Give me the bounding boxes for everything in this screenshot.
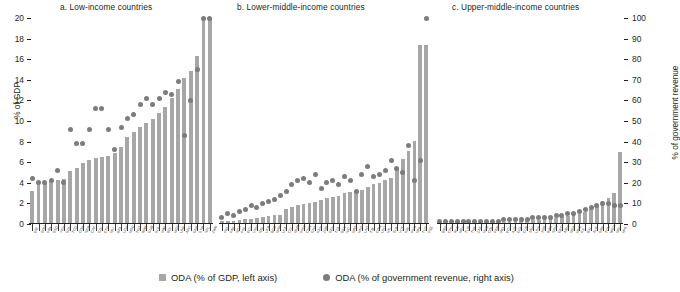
bar — [94, 158, 98, 224]
plot-area-a — [29, 18, 213, 224]
data-point-dot — [225, 211, 230, 216]
data-point-dot — [406, 143, 411, 148]
bar — [372, 184, 376, 224]
data-point-dot — [169, 92, 174, 97]
bar — [360, 190, 364, 224]
data-point-dot — [289, 182, 294, 187]
legend-label-oda-revenue: ODA (% of government revenue, right axis… — [335, 272, 514, 283]
data-point-dot — [55, 168, 60, 173]
y-tick-label-left: 14 — [8, 75, 24, 85]
bar — [401, 159, 405, 224]
y-tick-label-left: 8 — [8, 137, 24, 147]
x-tick-mark — [545, 224, 546, 231]
y-tick-mark-right — [624, 203, 628, 204]
panel-title-a: a. Low-income countries — [60, 2, 152, 12]
y-tick-label-right: 90 — [632, 34, 641, 44]
panel-title-c: c. Upper-middle-income countries — [452, 2, 579, 12]
bar — [163, 107, 167, 224]
bar — [62, 179, 66, 224]
x-tick-mark — [39, 224, 40, 231]
data-point-dot — [618, 203, 623, 208]
panel-low-income: ERISOMPRKSSDYEMSDNTCDCODNERCAFGINETHMLIB… — [29, 18, 213, 224]
y-tick-label-left: 20 — [8, 13, 24, 23]
y-tick-label-left: 10 — [8, 116, 24, 126]
data-point-dot — [30, 176, 35, 181]
x-tick-mark — [96, 224, 97, 231]
x-tick-mark — [539, 224, 540, 231]
bar — [81, 163, 85, 224]
x-tick-mark — [446, 224, 447, 231]
y-tick-label-right: 60 — [632, 95, 641, 105]
x-tick-mark — [77, 224, 78, 231]
bar — [113, 153, 117, 224]
data-point-dot — [207, 16, 212, 21]
data-point-dot — [589, 205, 594, 210]
y-tick-label-left: 16 — [8, 54, 24, 64]
bar — [208, 18, 212, 224]
data-point-dot — [106, 127, 111, 132]
bar — [331, 197, 335, 224]
y-tick-mark-right — [624, 39, 628, 40]
bar — [407, 151, 411, 224]
data-point-dot — [231, 213, 236, 218]
bar — [132, 132, 136, 224]
data-point-dot — [295, 178, 300, 183]
legend-swatch-circle-icon — [323, 274, 330, 281]
x-tick-row-c: BRACHNRUSMEXTURTHAZAFMYSCOLPERIRQECUAZED… — [437, 224, 623, 232]
data-point-dot — [371, 174, 376, 179]
data-point-dot — [131, 112, 136, 117]
bar — [202, 18, 206, 224]
bar — [313, 202, 317, 224]
data-point-dot — [354, 189, 359, 194]
data-point-dot — [330, 178, 335, 183]
x-tick-mark — [409, 224, 410, 231]
plot-area-b — [219, 18, 429, 224]
bar — [138, 127, 142, 224]
x-tick-mark — [234, 224, 235, 231]
data-point-dot — [219, 215, 224, 220]
bar — [43, 183, 47, 224]
panel-upper-middle-income: BRACHNRUSMEXTURTHAZAFMYSCOLPERIRQECUAZED… — [437, 18, 623, 224]
data-point-dot — [112, 147, 117, 152]
x-tick-mark — [339, 224, 340, 231]
legend-item-oda-gdp: ODA (% of GDP, left axis) — [159, 272, 277, 283]
y-tick-mark-right — [624, 162, 628, 163]
data-point-dot — [80, 141, 85, 146]
bar — [290, 207, 294, 225]
data-point-dot — [125, 116, 130, 121]
x-tick-mark — [510, 224, 511, 231]
y-tick-mark-right — [624, 183, 628, 184]
y-tick-label-left: 4 — [8, 178, 24, 188]
bar — [296, 205, 300, 224]
data-point-dot — [254, 205, 259, 210]
data-point-dot — [49, 178, 54, 183]
bar — [389, 178, 393, 224]
y-tick-label-right: 10 — [632, 198, 641, 208]
y-tick-mark-right — [624, 80, 628, 81]
data-point-dot — [87, 127, 92, 132]
panel-lower-middle-income: INDPAKNGAPHLEGYVNMIDNUKRBGDMARLKACIVMMRK… — [219, 18, 429, 224]
data-point-dot — [163, 90, 168, 95]
data-point-dot — [176, 79, 181, 84]
x-tick-row-b: INDPAKNGAPHLEGYVNMIDNUKRBGDMARLKACIVMMRK… — [219, 224, 429, 232]
data-point-dot — [606, 201, 611, 206]
y-tick-label-left: 6 — [8, 157, 24, 167]
plot-area-c — [437, 18, 623, 224]
data-point-dot — [365, 164, 370, 169]
y-tick-mark-right — [624, 18, 628, 19]
bar — [284, 209, 288, 224]
data-point-dot — [324, 180, 329, 185]
bar — [383, 180, 387, 224]
data-point-dot — [612, 203, 617, 208]
y-tick-label-left: 12 — [8, 95, 24, 105]
data-point-dot — [359, 172, 364, 177]
y-tick-label-right: 30 — [632, 157, 641, 167]
data-point-dot — [99, 106, 104, 111]
y-tick-label-right: 70 — [632, 75, 641, 85]
x-tick-mark — [374, 224, 375, 231]
bar — [325, 198, 329, 224]
bar — [319, 200, 323, 224]
bar — [49, 182, 53, 224]
y-tick-label-right: 100 — [632, 13, 646, 23]
